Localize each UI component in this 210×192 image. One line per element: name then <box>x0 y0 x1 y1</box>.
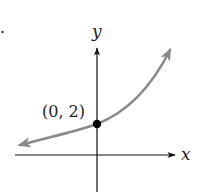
y-intercept-point <box>93 120 101 128</box>
point-label: (0, 2) <box>42 102 85 121</box>
x-axis-label: x <box>181 144 191 164</box>
stray-dot <box>1 31 4 34</box>
exponential-curve <box>20 50 170 145</box>
exponential-graph: (0, 2) y x <box>0 0 210 192</box>
y-axis-label: y <box>91 21 102 41</box>
